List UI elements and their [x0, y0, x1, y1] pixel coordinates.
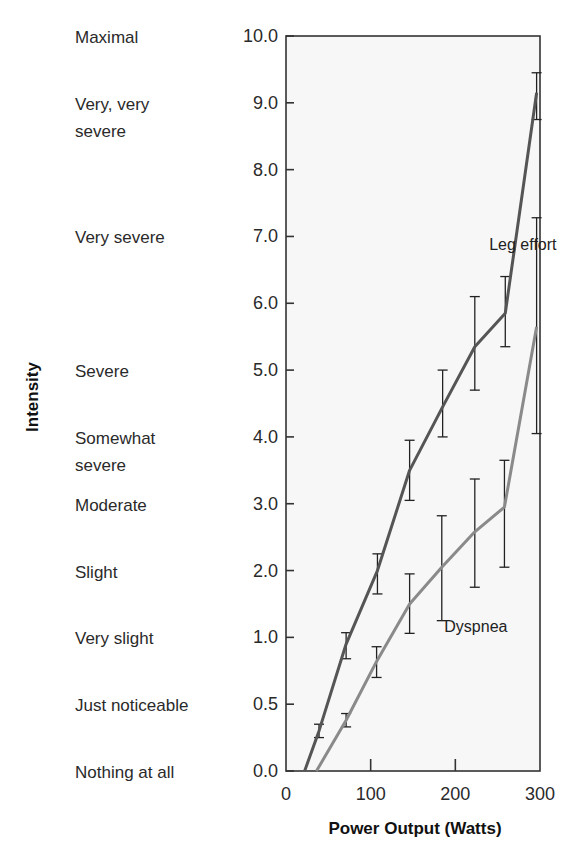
x-tick-label: 100 — [356, 784, 386, 804]
y-descriptor-label: Somewhat — [75, 429, 156, 448]
y-tick-label: 4.0 — [253, 427, 278, 447]
rpe-chart: 0.00.51.02.03.04.05.06.07.08.09.010.0 No… — [0, 0, 567, 850]
y-tick-label: 7.0 — [253, 226, 278, 246]
x-axis-title: Power Output (Watts) — [328, 819, 501, 838]
y-descriptor-label: Just noticeable — [75, 696, 188, 715]
y-descriptor-label: severe — [75, 122, 126, 141]
y-tick-label: 9.0 — [253, 93, 278, 113]
y-tick-label: 3.0 — [253, 494, 278, 514]
y-descriptor-label: Maximal — [75, 28, 138, 47]
y-tick-label: 5.0 — [253, 360, 278, 380]
y-tick-label: 6.0 — [253, 293, 278, 313]
y-descriptor-label: Slight — [75, 563, 118, 582]
x-tick-label: 300 — [525, 784, 555, 804]
series-label: Dyspnea — [444, 618, 507, 635]
y-tick-label: 2.0 — [253, 561, 278, 581]
series-label: Leg effort — [489, 236, 557, 253]
y-descriptor-label: Nothing at all — [75, 763, 174, 782]
y-descriptor-labels: Nothing at allJust noticeableVery slight… — [75, 28, 188, 782]
y-descriptor-label: Very, very — [75, 95, 150, 114]
x-tick-label: 0 — [281, 784, 291, 804]
y-tick-label: 0.0 — [253, 761, 278, 781]
y-axis-title: Intensity — [23, 362, 42, 432]
y-tick-label: 0.5 — [253, 694, 278, 714]
plot-area — [286, 36, 540, 771]
y-descriptor-label: Moderate — [75, 496, 147, 515]
y-tick-label: 8.0 — [253, 160, 278, 180]
y-descriptor-label: Very slight — [75, 629, 154, 648]
y-descriptor-label: Severe — [75, 362, 129, 381]
y-tick-label: 10.0 — [243, 26, 278, 46]
y-descriptor-label: severe — [75, 456, 126, 475]
y-descriptor-label: Very severe — [75, 228, 165, 247]
x-tick-label: 200 — [440, 784, 470, 804]
y-tick-label: 1.0 — [253, 627, 278, 647]
